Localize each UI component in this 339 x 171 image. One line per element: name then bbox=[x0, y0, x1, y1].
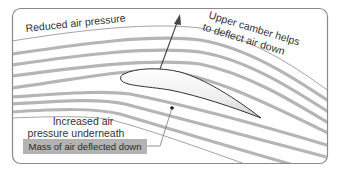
svg-text:Mass of air deflected down: Mass of air deflected down bbox=[28, 141, 141, 152]
label-box-air-deflected: Mass of air deflected down bbox=[23, 139, 147, 154]
airfoil-lift-diagram: Reduced air pressure Upper camber helps … bbox=[0, 0, 339, 171]
svg-text:pressure underneath: pressure underneath bbox=[28, 127, 125, 139]
svg-text:Increased air: Increased air bbox=[53, 115, 114, 127]
